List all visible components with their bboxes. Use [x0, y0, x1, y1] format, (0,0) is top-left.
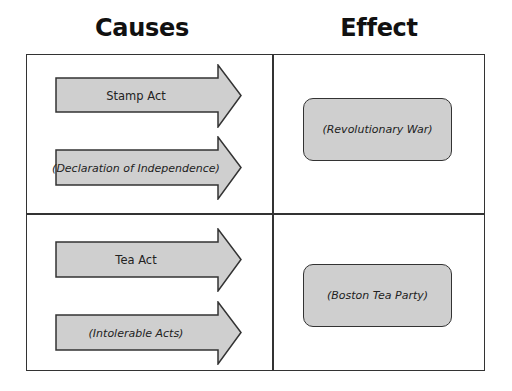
cause-label: Stamp Act	[55, 64, 217, 128]
cause-arrow-tea-act: Tea Act	[55, 228, 243, 292]
row-divider	[26, 213, 485, 215]
cause-arrow-declaration: (Declaration of Independence)	[55, 136, 243, 200]
cause-label: (Declaration of Independence)	[55, 136, 217, 200]
cause-arrow-intolerable-acts: (Intolerable Acts)	[55, 301, 243, 365]
effect-box-revolutionary-war: (Revolutionary War)	[303, 98, 452, 161]
cause-label: (Intolerable Acts)	[55, 301, 217, 365]
effect-header: Effect	[279, 14, 479, 42]
effect-box-boston-tea-party: (Boston Tea Party)	[303, 264, 452, 327]
cause-arrow-stamp-act: Stamp Act	[55, 64, 243, 128]
cause-label: Tea Act	[55, 228, 217, 292]
causes-header: Causes	[42, 14, 242, 42]
